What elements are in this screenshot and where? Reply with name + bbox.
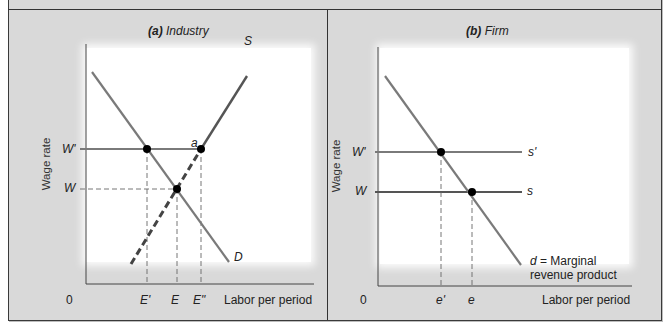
industry-point-e — [173, 185, 181, 193]
industry-demand-curve — [92, 72, 229, 262]
chart-lines — [0, 0, 670, 332]
firm-demand-curve — [385, 76, 521, 265]
firm-axes — [378, 47, 632, 286]
industry-point-e-prime — [143, 145, 151, 153]
industry-axes — [86, 44, 314, 284]
firm-point-e-prime — [437, 148, 445, 156]
industry-supply-dashed — [131, 149, 201, 264]
industry-point-a — [197, 145, 205, 153]
industry-supply-solid — [201, 76, 247, 149]
firm-point-e — [468, 188, 476, 196]
